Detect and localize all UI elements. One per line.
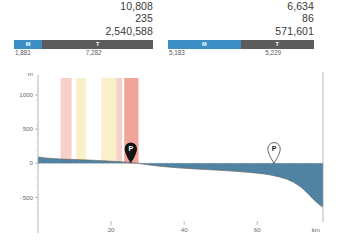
stat-value-tertiary: 571,601 <box>168 25 314 37</box>
y-axis-tick-label: -500 <box>21 194 34 201</box>
x-axis-unit-label: km <box>312 226 320 233</box>
y-axis-group: 10005000-500m <box>19 70 38 233</box>
stat-panel-left: 10,808 235 2,540,588 M T 1,881 7,282 <box>14 0 153 66</box>
bar-segment-label: T <box>276 42 280 48</box>
chart-band <box>116 78 122 163</box>
map-markers-group: PP <box>125 143 281 164</box>
bar-segment-t[interactable]: T <box>241 40 314 49</box>
chart-band <box>101 78 116 163</box>
map-pin-marker[interactable]: P <box>268 143 280 164</box>
y-axis-unit-label: m <box>28 70 33 77</box>
elevation-area-group <box>38 157 323 207</box>
bar-values-left: 1,881 7,282 <box>14 50 153 62</box>
bar-segment-t[interactable]: T <box>42 40 153 49</box>
bar-values-right: 5,183 5,229 <box>168 50 314 62</box>
elevation-area <box>38 157 323 207</box>
bar-value-t: 5,229 <box>265 50 281 56</box>
pin-label: P <box>128 145 133 152</box>
x-axis-group: 204060km <box>108 72 323 233</box>
stat-value-secondary: 235 <box>14 12 153 24</box>
chart-band <box>61 78 72 163</box>
elevation-profile-svg: 10005000-500m 204060km PP <box>0 66 341 244</box>
y-axis-tick-label: 500 <box>23 125 34 132</box>
bar-value-m: 1,881 <box>15 50 31 56</box>
x-axis-tick-label: 60 <box>254 226 261 233</box>
summary-stats-region: 10,808 235 2,540,588 M T 1,881 7,282 6,6… <box>0 0 341 66</box>
y-axis-tick-label: 0 <box>30 159 34 166</box>
elevation-profile-chart: 10005000-500m 204060km PP <box>0 66 341 244</box>
split-bar-left: M T <box>14 40 153 49</box>
bar-segment-m[interactable]: M <box>168 40 241 49</box>
x-axis-tick-label: 40 <box>181 226 188 233</box>
stat-value-secondary: 86 <box>168 12 314 24</box>
stat-panel-right: 6,634 86 571,601 M T 5,183 5,229 <box>168 0 314 66</box>
bar-segment-label: M <box>202 42 207 48</box>
stat-numbers-left: 10,808 235 2,540,588 <box>14 0 153 37</box>
stat-numbers-right: 6,634 86 571,601 <box>168 0 314 37</box>
x-axis-tick-label: 20 <box>108 226 115 233</box>
bar-segment-label: M <box>26 42 31 48</box>
bar-segment-label: T <box>96 42 100 48</box>
stat-value-primary: 10,808 <box>14 0 153 12</box>
pin-label: P <box>272 145 277 152</box>
bar-segment-m[interactable]: M <box>14 40 42 49</box>
chart-band <box>76 78 86 163</box>
stat-value-primary: 6,634 <box>168 0 314 12</box>
bar-value-m: 5,183 <box>169 50 185 56</box>
y-axis-tick-label: 1000 <box>19 91 33 98</box>
split-bar-right: M T <box>168 40 314 49</box>
stat-value-tertiary: 2,540,588 <box>14 25 153 37</box>
bar-value-t: 7,282 <box>86 50 102 56</box>
